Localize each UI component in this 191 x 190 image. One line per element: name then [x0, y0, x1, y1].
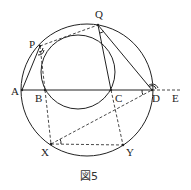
angle-mark-Q [100, 31, 104, 33]
angle-mark-P-inner [39, 48, 43, 52]
label-A: A [11, 85, 19, 97]
angle-mark-D-low [142, 90, 143, 95]
label-E: E [172, 92, 179, 104]
label-C: C [115, 92, 122, 104]
segment-QC [98, 25, 111, 90]
label-X: X [41, 146, 49, 158]
figure-caption: 図5 [80, 170, 98, 183]
label-Y: Y [126, 146, 134, 158]
segment-PQ-dashed [40, 25, 98, 46]
segment-XD-dashed [51, 90, 152, 144]
angle-mark-X [60, 139, 61, 144]
segment-BX-dashed [45, 90, 51, 144]
label-Q: Q [95, 8, 103, 20]
label-D: D [152, 92, 160, 104]
label-P: P [29, 38, 35, 50]
label-B: B [35, 92, 42, 104]
segment-XY-dashed [51, 144, 123, 145]
small-circle [41, 35, 115, 109]
geometry-figure: A B C D E P Q X Y 図5 [0, 0, 191, 190]
